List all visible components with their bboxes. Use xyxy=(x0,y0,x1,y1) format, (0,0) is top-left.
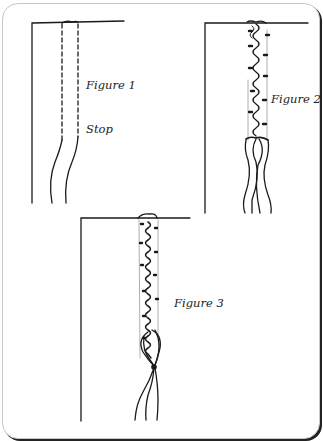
figure-3-drawing xyxy=(81,214,190,421)
figure-2-drawing xyxy=(205,21,308,213)
figure-2-label: Figure 2 xyxy=(271,92,321,106)
figure-1-stop-annotation: Stop xyxy=(86,122,113,136)
figure-3-label: Figure 3 xyxy=(174,296,224,310)
figure-1-drawing xyxy=(32,21,124,203)
seam-diagrams xyxy=(0,0,323,441)
figure-1-label: Figure 1 xyxy=(86,78,136,92)
